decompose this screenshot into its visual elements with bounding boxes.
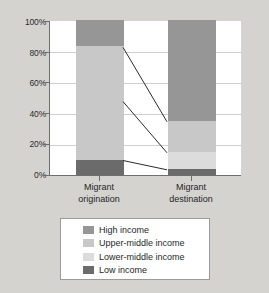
x-axis-label-migrant-destination: Migrant destination [141,182,241,205]
legend-item-lower-middle-income[interactable]: Lower-middle income [83,250,209,264]
legend-label: Upper-middle income [99,238,185,248]
y-tick-label-60: 60% [10,78,46,88]
legend: High income Upper-middle income Lower-mi… [60,218,210,280]
legend-swatch-icon [83,253,94,261]
x-tick-mark-origination [99,176,100,181]
connector-upper-middle-boundary [123,102,167,153]
y-tick-label-0: 0% [10,170,46,180]
y-tick-label-80: 80% [10,48,46,58]
x-axis-label-line-1: Migrant [141,182,241,194]
x-tick-mark-destination [191,176,192,181]
legend-label: Lower-middle income [99,252,185,262]
legend-swatch-icon [83,266,94,274]
y-tick-label-20: 20% [10,139,46,149]
legend-item-high-income[interactable]: High income [83,223,209,237]
x-axis-label-line-2: origination [49,194,149,206]
y-tick-label-40: 40% [10,109,46,119]
y-tick-label-100: 100% [10,17,46,27]
x-axis-label-migrant-origination: Migrant origination [49,182,149,205]
legend-item-upper-middle-income[interactable]: Upper-middle income [83,237,209,251]
x-axis-label-line-1: Migrant [49,182,149,194]
x-axis-label-line-2: destination [141,194,241,206]
legend-label: Low income [99,265,147,275]
connector-high-income-boundary [123,47,167,121]
stacked-bar-chart-figure: 100% 80% 60% 40% 20% 0% [0,0,269,293]
connector-low-income-boundary [123,161,167,170]
legend-swatch-icon [83,226,94,234]
connector-lines [49,21,241,176]
legend-label: High income [99,225,149,235]
legend-swatch-icon [83,239,94,247]
legend-item-low-income[interactable]: Low income [83,264,209,278]
